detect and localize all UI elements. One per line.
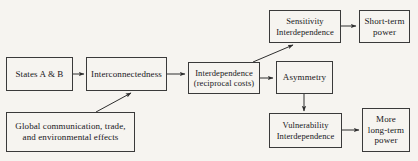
- node-interdependence-label: Interdependence (reciprocal costs): [191, 68, 258, 88]
- node-interconnectedness-label: Interconnectedness: [88, 69, 165, 80]
- node-vulnerability-interdependence-label: Vulnerability Interdependence: [274, 120, 338, 140]
- node-sensitivity-interdependence[interactable]: Sensitivity Interdependence: [269, 10, 341, 43]
- node-states-a-and-b[interactable]: States A & B: [6, 57, 73, 91]
- node-vulnerability-interdependence[interactable]: Vulnerability Interdependence: [269, 113, 342, 148]
- diagram-canvas: States A & B Interconnectedness Global c…: [0, 0, 418, 161]
- node-states-a-and-b-label: States A & B: [13, 69, 67, 80]
- node-asymmetry[interactable]: Asymmetry: [276, 61, 333, 94]
- node-short-term-power-label: Short-term power: [362, 16, 408, 37]
- node-global-communication-label: Global communication, trade, and environ…: [12, 121, 128, 142]
- node-short-term-power[interactable]: Short-term power: [359, 10, 410, 43]
- edge-global-to-interconnectedness: [96, 93, 131, 112]
- node-global-communication-trade-environment[interactable]: Global communication, trade, and environ…: [6, 112, 135, 152]
- node-more-long-term-power[interactable]: More long-term power: [362, 108, 410, 152]
- node-sensitivity-interdependence-label: Sensitivity Interdependence: [273, 16, 337, 36]
- node-interconnectedness[interactable]: Interconnectedness: [86, 57, 167, 91]
- edge-interdependence-to-sensitivity: [253, 45, 293, 62]
- node-interdependence[interactable]: Interdependence (reciprocal costs): [188, 62, 260, 94]
- node-asymmetry-label: Asymmetry: [280, 72, 329, 83]
- node-more-long-term-power-label: More long-term power: [365, 114, 407, 146]
